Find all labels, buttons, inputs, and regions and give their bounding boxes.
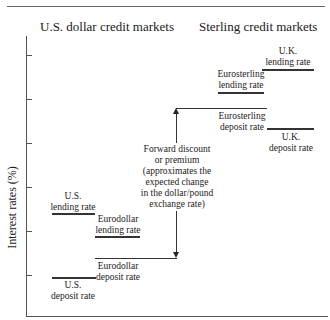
- eurodollar-lending-rate-line: [95, 236, 140, 238]
- y-tick: [27, 231, 32, 232]
- eurodollar-deposit-rate-line: [95, 258, 177, 259]
- y-tick: [27, 143, 32, 144]
- us-deposit-label: U.S. deposit rate: [50, 280, 96, 302]
- eurosterling-deposit-rate-line: [176, 108, 267, 109]
- y-tick: [27, 187, 32, 188]
- x-axis: [26, 316, 328, 317]
- us-deposit-rate-line: [52, 277, 96, 279]
- eurodollar-deposit-label: Eurodollar deposit rate: [95, 261, 141, 283]
- arrow-up-icon: [173, 108, 179, 114]
- eurosterling-lending-rate-line: [218, 92, 264, 94]
- us-market-header: U.S. dollar credit markets: [40, 19, 174, 35]
- uk-deposit-rate-line: [267, 128, 314, 130]
- eurosterling-lending-label: Eurosterling lending rate: [215, 69, 267, 91]
- uk-deposit-label: U.K. deposit rate: [265, 132, 317, 154]
- eurodollar-lending-label: Eurodollar lending rate: [95, 214, 141, 236]
- y-tick: [27, 55, 32, 56]
- eurosterling-deposit-label: Eurosterling deposit rate: [217, 111, 267, 133]
- us-lending-rate-line: [52, 213, 95, 215]
- us-lending-label: U.S. lending rate: [50, 191, 96, 213]
- uk-lending-label: U.K. lending rate: [262, 46, 314, 68]
- y-tick: [27, 99, 32, 100]
- y-axis-label: Interest rates (%): [5, 158, 20, 258]
- y-tick: [27, 275, 32, 276]
- forward-premium-annotation: Forward discount or premium (approximate…: [139, 143, 215, 211]
- uk-lending-rate-line: [262, 69, 314, 71]
- top-rule: [7, 6, 325, 7]
- uk-market-header: Sterling credit markets: [199, 19, 317, 35]
